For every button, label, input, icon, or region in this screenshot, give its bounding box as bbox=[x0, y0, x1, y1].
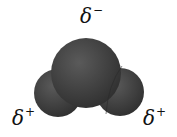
partial-negative-label: δ− bbox=[80, 4, 103, 26]
oxygen-atom bbox=[51, 38, 121, 108]
partial-positive-label-right: δ+ bbox=[143, 106, 166, 128]
partial-positive-label-left: δ+ bbox=[12, 106, 35, 128]
